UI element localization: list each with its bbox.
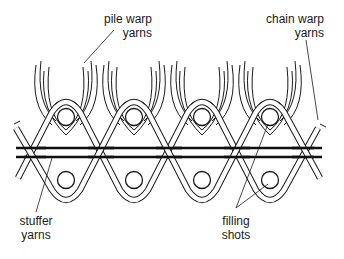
chain-warp-leader	[306, 40, 318, 120]
filling-label-line2: shots	[214, 228, 258, 242]
pile-warp-yarns	[35, 61, 302, 135]
chain-warp-label-line1: chain warp	[258, 12, 324, 26]
stuffer-label-line2: yarns	[14, 228, 58, 242]
chain-warp-label-line2: yarns	[258, 26, 324, 40]
stuffer-label-line1: stuffer	[14, 214, 58, 228]
filling-label: filling shots	[214, 214, 258, 242]
pile-warp-label: pile warp yarns	[98, 12, 152, 40]
filling-label-line1: filling	[214, 214, 258, 228]
chain-warp-label: chain warp yarns	[258, 12, 324, 40]
pile-warp-label-line1: pile warp	[98, 12, 152, 26]
stuffer-label: stuffer yarns	[14, 214, 58, 242]
pile-warp-label-line2: yarns	[98, 26, 152, 40]
